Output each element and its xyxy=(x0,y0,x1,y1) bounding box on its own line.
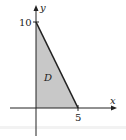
scan-band xyxy=(0,126,126,129)
x-tick-label: 5 xyxy=(75,112,81,123)
y-axis-label: y xyxy=(39,2,46,13)
region-diagram: y x 10 5 D xyxy=(0,0,126,140)
region-label: D xyxy=(43,72,52,83)
x-axis-label: x xyxy=(110,95,116,106)
y-tick-label: 10 xyxy=(19,17,32,28)
y-axis-arrow-icon xyxy=(34,5,39,11)
diagram-svg: y x 10 5 D xyxy=(0,0,126,140)
x-axis-arrow-icon xyxy=(111,106,117,111)
